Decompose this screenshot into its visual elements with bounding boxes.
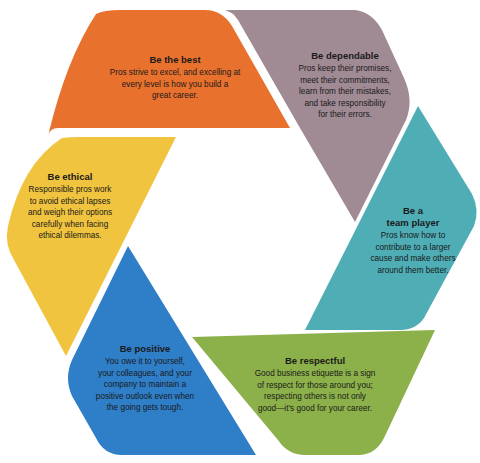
segment-dependable: Be dependable Pros keep their promises, … bbox=[285, 50, 405, 121]
segment-body: Pros know how to contribute to a larger … bbox=[358, 230, 468, 276]
segment-title: Be a team player bbox=[358, 205, 468, 229]
segment-body: Pros strive to excel, and excelling at e… bbox=[95, 67, 255, 102]
segment-positive: Be positive You owe it to yourself, your… bbox=[85, 343, 205, 414]
segment-body: You owe it to yourself, your colleagues,… bbox=[85, 356, 205, 414]
segment-title: Be dependable bbox=[285, 50, 405, 62]
segment-body: Pros keep their promises, meet their com… bbox=[285, 63, 405, 121]
segment-title: Be ethical bbox=[18, 171, 122, 183]
segment-title: Be positive bbox=[85, 343, 205, 355]
segment-respectful: Be respectful Good business etiquette is… bbox=[240, 355, 390, 414]
segment-ethical: Be ethical Responsible pros work to avoi… bbox=[18, 171, 122, 242]
segment-best: Be the best Pros strive to excel, and ex… bbox=[95, 54, 255, 102]
segment-body: Responsible pros work to avoid ethical l… bbox=[18, 184, 122, 242]
segment-team-player: Be a team player Pros know how to contri… bbox=[358, 205, 468, 276]
segment-title: Be the best bbox=[95, 54, 255, 66]
segment-title: Be respectful bbox=[240, 355, 390, 367]
segment-body: Good business etiquette is a sign of res… bbox=[240, 368, 390, 414]
